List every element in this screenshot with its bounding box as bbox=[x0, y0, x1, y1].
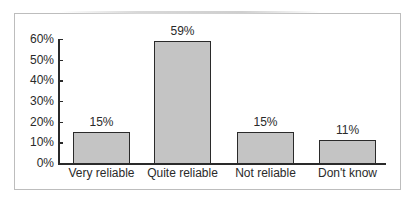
y-tick-mark bbox=[58, 101, 63, 102]
bar-value-label: 59% bbox=[153, 24, 213, 38]
y-tick-mark bbox=[58, 39, 63, 40]
y-tick-mark bbox=[58, 142, 63, 143]
y-tick-label: 60% bbox=[14, 32, 54, 46]
y-tick-label: 0% bbox=[14, 156, 54, 170]
bar bbox=[237, 132, 294, 163]
bar-chart: 0%10%20%30%40%50%60%15%Very reliable59%Q… bbox=[0, 0, 413, 201]
y-tick-mark bbox=[58, 60, 63, 61]
y-tick-label: 40% bbox=[14, 73, 54, 87]
bar-value-label: 15% bbox=[236, 115, 296, 129]
bar bbox=[73, 132, 130, 163]
bar-value-label: 15% bbox=[72, 115, 132, 129]
y-tick-mark bbox=[58, 80, 63, 81]
bar bbox=[319, 140, 376, 163]
y-tick-label: 30% bbox=[14, 94, 54, 108]
bar-value-label: 11% bbox=[318, 123, 378, 137]
bar bbox=[154, 41, 211, 163]
y-tick-label: 10% bbox=[14, 135, 54, 149]
y-tick-label: 20% bbox=[14, 115, 54, 129]
y-tick-label: 50% bbox=[14, 53, 54, 67]
x-axis bbox=[58, 163, 386, 165]
x-category-label: Don't know bbox=[298, 166, 398, 180]
y-tick-mark bbox=[58, 122, 63, 123]
